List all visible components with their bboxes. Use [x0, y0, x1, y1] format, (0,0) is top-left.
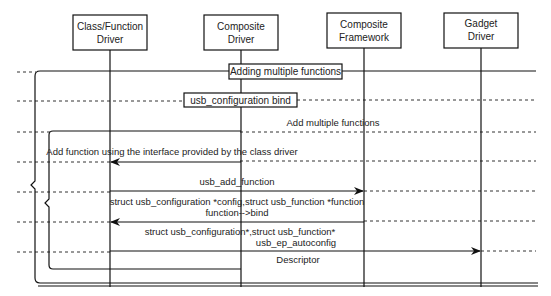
- message-label-line2: function-->bind: [205, 207, 268, 218]
- actor-composite-driver: Composite Driver: [204, 15, 278, 50]
- actor-label-line2: Driver: [97, 34, 124, 45]
- bind-label: usb_configuration bind: [190, 95, 291, 106]
- actor-label-line2: Driver: [468, 31, 495, 42]
- actor-label-line2: Framework: [339, 32, 390, 43]
- actor-label-line1: Composite: [340, 19, 388, 30]
- actor-label-line1: Class/Function: [77, 21, 143, 32]
- message-label: Descriptor: [276, 254, 319, 265]
- actor-label-line1: Gadget: [465, 18, 498, 29]
- message-label-line2: usb_ep_autoconfig: [256, 237, 336, 248]
- message-label: usb_add_function: [199, 176, 274, 187]
- actor-label-line2: Driver: [228, 34, 255, 45]
- message-function-bind: struct usb_configuration *config,struct …: [110, 196, 365, 222]
- actor-gadget-driver: Gadget Driver: [444, 13, 518, 48]
- message-add-function-interface: Add function using the interface provide…: [46, 146, 297, 162]
- bind-label-box: usb_configuration bind: [184, 93, 297, 107]
- message-descriptor: Descriptor: [276, 254, 319, 265]
- outer-frame-label-box: Adding multiple functions: [229, 64, 342, 79]
- inner-frame-label: Add multiple functions: [287, 117, 380, 128]
- message-label-line1: struct usb_configuration *config,struct …: [110, 196, 365, 207]
- sequence-diagram: Class/Function Driver Composite Driver C…: [0, 0, 551, 296]
- actor-class-function-driver: Class/Function Driver: [73, 15, 147, 50]
- message-usb-ep-autoconfig: struct usb_configuration*,struct usb_fun…: [110, 226, 480, 251]
- outer-frame-label: Adding multiple functions: [230, 66, 341, 77]
- message-label-line1: struct usb_configuration*,struct usb_fun…: [145, 226, 336, 237]
- actor-label-line1: Composite: [217, 21, 265, 32]
- message-label: Add function using the interface provide…: [46, 146, 297, 157]
- actor-composite-framework: Composite Framework: [327, 13, 401, 48]
- message-usb-add-function: usb_add_function: [110, 176, 363, 191]
